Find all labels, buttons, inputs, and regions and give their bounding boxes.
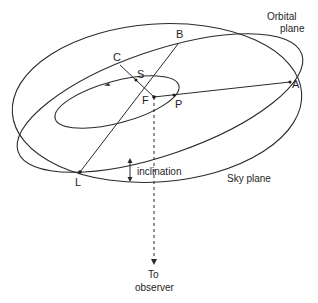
orbit-diagram: B C S F P A L Orbital plane Sky plane in… [0, 0, 318, 303]
point-F [152, 95, 156, 99]
inclination-arrow-head-down [128, 177, 133, 182]
label-P: P [175, 98, 182, 110]
point-L [78, 170, 82, 174]
label-orbital-plane: Orbital [267, 11, 296, 22]
label-F: F [142, 94, 149, 106]
label-observer: observer [135, 282, 175, 293]
label-inclination: inclination [137, 166, 181, 177]
inclination-arrow-head-up [128, 158, 133, 163]
label-S: S [137, 68, 144, 80]
line-L-B [80, 44, 178, 172]
label-L: L [75, 176, 81, 188]
label-to: To [148, 269, 159, 280]
label-orbital-plane-2: plane [280, 23, 305, 34]
orbit-ellipse [50, 65, 185, 139]
label-sky-plane: Sky plane [227, 173, 271, 184]
label-A: A [292, 78, 300, 90]
label-C: C [113, 51, 121, 63]
point-P [173, 94, 176, 97]
label-B: B [176, 28, 183, 40]
